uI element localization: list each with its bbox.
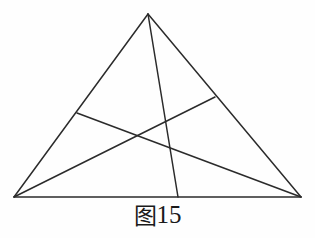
figure-caption-cjk: 图: [134, 203, 157, 229]
cevian-bottom-left-to-right-edge: [14, 97, 215, 197]
cevian-left-edge-to-bottom-right: [77, 113, 301, 197]
figure-container: 图15: [0, 0, 315, 238]
figure-caption: 图15: [0, 200, 315, 231]
segments-group: [14, 14, 301, 197]
cevian-apex-to-base: [148, 14, 178, 197]
triangle-right-side: [148, 14, 301, 197]
figure-caption-number: 15: [157, 201, 182, 228]
triangle-left-side: [14, 14, 148, 197]
